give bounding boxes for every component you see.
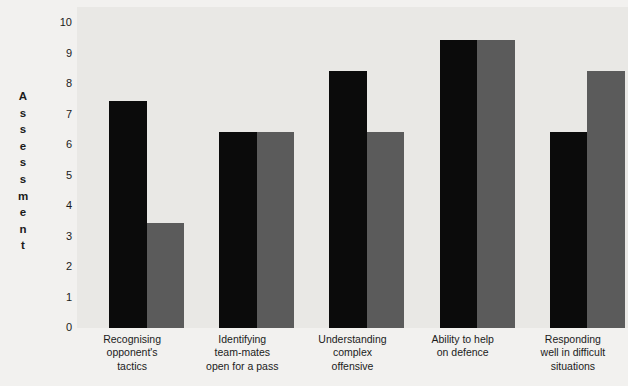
x-axis-label-line: Ability to help — [408, 333, 518, 346]
bar-grey — [477, 40, 515, 328]
y-axis-title-letter: s — [12, 171, 34, 188]
bar-grey — [587, 71, 625, 328]
x-axis-category-label: Recognisingopponent'stactics — [77, 333, 187, 373]
y-axis-title-letter: s — [12, 121, 34, 138]
bar-grey — [147, 223, 185, 328]
y-axis-tick-label: 8 — [44, 77, 72, 89]
bar-group — [219, 7, 294, 328]
bar-black — [440, 40, 478, 328]
y-axis-title-letter: n — [12, 221, 34, 238]
bar-black — [219, 132, 257, 328]
x-axis-label-line: well in difficult — [518, 346, 628, 359]
x-axis-category-label: Identifyingteam-matesopen for a pass — [187, 333, 297, 373]
y-axis-tick-label: 1 — [44, 291, 72, 303]
y-axis-tick-label: 7 — [44, 108, 72, 120]
y-axis-tick-labels: 109876543210 — [44, 0, 72, 386]
y-axis-title-letter: A — [12, 88, 34, 105]
bar-black — [109, 101, 147, 328]
bar-series-container — [77, 7, 628, 328]
x-axis-label-line: situations — [518, 360, 628, 373]
bar-black — [550, 132, 588, 328]
x-axis-category-label: Ability to helpon defence — [408, 333, 518, 360]
x-axis-category-label: Understandingcomplexoffensive — [297, 333, 407, 373]
x-axis-label-line: open for a pass — [187, 360, 297, 373]
x-axis-label-line: opponent's — [77, 346, 187, 359]
x-axis-label-line: team-mates — [187, 346, 297, 359]
y-axis-tick-label: 3 — [44, 230, 72, 242]
bar-grey — [367, 132, 405, 328]
y-axis-tick-label: 10 — [44, 16, 72, 28]
y-axis-title-letter: s — [12, 105, 34, 122]
x-axis-label-line: complex — [297, 346, 407, 359]
bar-grey — [257, 132, 295, 328]
y-axis-title-letter: s — [12, 154, 34, 171]
x-axis-label-line: tactics — [77, 360, 187, 373]
x-axis-label-line: offensive — [297, 360, 407, 373]
bar-group — [109, 7, 184, 328]
bar-group — [550, 7, 625, 328]
bar-group — [440, 7, 515, 328]
y-axis-tick-label: 6 — [44, 138, 72, 150]
y-axis-title-letter: m — [12, 188, 34, 205]
x-axis-category-label: Respondingwell in difficultsituations — [518, 333, 628, 373]
x-axis-label-line: on defence — [408, 346, 518, 359]
chart-container: Assessment 109876543210 Recognisingoppon… — [0, 0, 628, 386]
x-axis-label-line: Understanding — [297, 333, 407, 346]
bar-black — [329, 71, 367, 328]
x-axis-category-labels: Recognisingopponent'stacticsIdentifyingt… — [77, 333, 628, 386]
y-axis-title-letter: e — [12, 204, 34, 221]
y-axis-tick-label: 2 — [44, 260, 72, 272]
y-axis-tick-label: 5 — [44, 169, 72, 181]
y-axis-title-letter: e — [12, 138, 34, 155]
y-axis-tick-label: 0 — [44, 321, 72, 333]
y-axis-title-letter: t — [12, 237, 34, 254]
plot-area — [77, 7, 628, 328]
x-axis-label-line: Identifying — [187, 333, 297, 346]
y-axis-tick-label: 9 — [44, 47, 72, 59]
y-axis-tick-label: 4 — [44, 199, 72, 211]
x-axis-label-line: Responding — [518, 333, 628, 346]
y-axis-title: Assessment — [12, 88, 34, 254]
x-axis-label-line: Recognising — [77, 333, 187, 346]
bar-group — [329, 7, 404, 328]
